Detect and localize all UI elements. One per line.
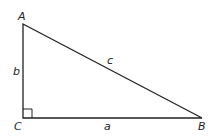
right-triangle-diagram: A b c C a B bbox=[0, 0, 216, 138]
side-label-c: c bbox=[107, 54, 113, 67]
right-angle-marker bbox=[23, 109, 32, 118]
vertex-label-b: B bbox=[198, 120, 206, 133]
vertex-label-a: A bbox=[17, 10, 26, 23]
side-label-b: b bbox=[13, 65, 20, 78]
side-label-a: a bbox=[104, 120, 111, 133]
vertex-label-c: C bbox=[14, 120, 22, 133]
triangle-outline bbox=[23, 24, 202, 118]
